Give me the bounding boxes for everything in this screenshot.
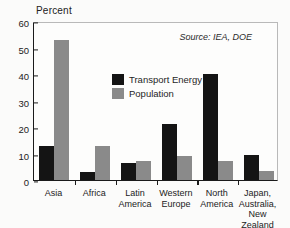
y-axis-tick-label: 50 xyxy=(18,44,34,55)
x-axis-category-line: New Zealand xyxy=(237,209,278,228)
bar[interactable] xyxy=(259,171,274,180)
x-axis-category-label: Africa xyxy=(74,188,115,199)
x-axis-tick-mark xyxy=(197,180,198,185)
legend-swatch-icon xyxy=(112,88,124,99)
y-axis-tick-mark xyxy=(34,181,38,182)
legend-item[interactable]: Transport Energy xyxy=(112,74,202,85)
legend-swatch-icon xyxy=(112,74,124,85)
bar[interactable] xyxy=(218,161,233,180)
bar[interactable] xyxy=(80,172,95,180)
x-axis-category-line: Western xyxy=(156,188,197,199)
legend-item[interactable]: Population xyxy=(112,88,202,99)
x-axis-tick-mark xyxy=(157,180,158,185)
x-axis-category-line: Latin xyxy=(115,188,156,199)
bar-group xyxy=(34,23,75,180)
y-axis-tick-label: 20 xyxy=(18,124,34,135)
x-axis-category-line: America xyxy=(115,199,156,210)
y-axis-tick-label: 60 xyxy=(18,18,34,29)
y-axis-tick-mark xyxy=(34,75,38,76)
x-axis-category-line: North xyxy=(196,188,237,199)
y-axis-tick-label: 40 xyxy=(18,71,34,82)
x-axis-category-line: Australia, xyxy=(237,199,278,210)
bar-group xyxy=(75,23,116,180)
x-axis-category-label: LatinAmerica xyxy=(115,188,156,209)
x-axis-category-line: America xyxy=(196,199,237,210)
x-axis-category-label: WesternEurope xyxy=(156,188,197,209)
bar[interactable] xyxy=(121,163,136,180)
y-axis-tick-label: 0 xyxy=(24,177,34,188)
y-axis-tick-mark xyxy=(34,102,38,103)
x-axis-category-line: Japan, xyxy=(237,188,278,199)
y-axis-tick-label: 10 xyxy=(18,150,34,161)
bar-chart: Percent 0102030405060 AsiaAfricaLatinAme… xyxy=(0,0,290,228)
x-axis-category-label: NorthAmerica xyxy=(196,188,237,209)
bar[interactable] xyxy=(39,146,54,180)
x-axis-category-line: Europe xyxy=(156,199,197,210)
source-annotation: Source: IEA, DOE xyxy=(179,32,252,42)
bar[interactable] xyxy=(54,40,69,180)
bar-group xyxy=(197,23,238,180)
x-axis-category-line: Asia xyxy=(33,188,74,199)
y-axis-tick-mark xyxy=(34,22,38,23)
x-axis-tick-mark xyxy=(116,180,117,185)
x-axis-category-line: Africa xyxy=(74,188,115,199)
x-axis-category-label: Japan,Australia,New Zealand xyxy=(237,188,278,228)
legend-item-label: Transport Energy xyxy=(129,74,202,85)
bar[interactable] xyxy=(203,74,218,180)
bar[interactable] xyxy=(136,161,151,180)
bar-group xyxy=(238,23,279,180)
legend-item-label: Population xyxy=(129,88,174,99)
bar[interactable] xyxy=(177,156,192,180)
bar[interactable] xyxy=(162,124,177,180)
bar[interactable] xyxy=(95,146,110,180)
y-axis-tick-label: 30 xyxy=(18,97,34,108)
bar[interactable] xyxy=(244,155,259,180)
y-axis-title: Percent xyxy=(36,5,72,16)
x-axis-labels: AsiaAfricaLatinAmericaWesternEuropeNorth… xyxy=(33,188,278,228)
x-axis-tick-mark xyxy=(238,180,239,185)
y-axis-tick-mark xyxy=(34,49,38,50)
x-axis-category-label: Asia xyxy=(33,188,74,199)
x-axis-tick-mark xyxy=(75,180,76,185)
y-axis-tick-mark xyxy=(34,155,38,156)
y-axis-tick-mark xyxy=(34,128,38,129)
chart-legend: Transport EnergyPopulation xyxy=(112,74,202,102)
